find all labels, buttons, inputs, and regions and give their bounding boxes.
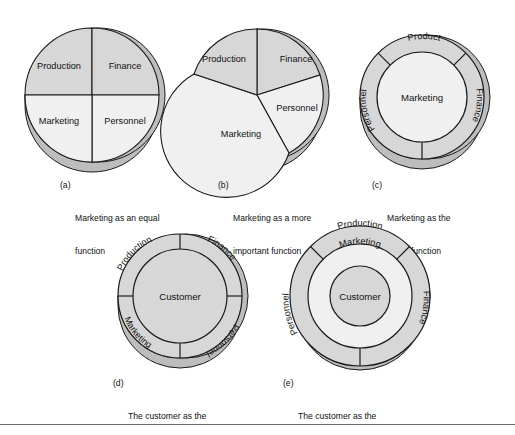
ring-center-label-d: Customer [159,291,201,302]
panel-d: Production Finance Personnel Marketing C… [100,218,260,376]
pie-label-marketing-a: Marketing [39,116,79,126]
pie-label-production-a: Production [37,61,81,71]
pie-label-marketing-b: Marketing [221,129,261,139]
pie-label-finance-a: Finance [109,61,142,71]
pie-slice-marketing-a [25,95,92,162]
pie-label-personnel-a: Personnel [104,116,145,126]
caption-e: (e) The customer as the controlling func… [283,378,443,435]
panel-b: Finance Personnel Marketing Production [186,14,336,174]
panel-a: Production Finance Personnel Marketing [18,14,168,174]
caption-d-label: (d) [113,378,124,389]
panel-e: Production Personnel Finance Marketing C… [268,214,444,384]
panel-c: Product Finance Personnel Marketing [344,14,504,174]
panel-b-pie-chart: Finance Personnel Marketing Production [186,14,336,174]
ring-center-label-c: Marketing [401,92,443,103]
pie-slice-personnel-a [92,95,159,162]
caption-e-line-1: The customer as the [298,411,443,422]
caption-c-label: (c) [372,180,382,191]
pie-label-production-b: Production [202,54,246,64]
panel-c-ring-chart: Product Finance Personnel Marketing [344,14,504,174]
caption-e-label: (e) [283,378,294,389]
ring-center-label-e: Customer [339,291,381,302]
panel-e-ring-chart: Production Personnel Finance Marketing C… [268,214,444,384]
caption-d-line-1: The customer as the [128,411,253,422]
caption-d: (d) The customer as the controlling func… [113,378,253,435]
figure-marketing-concept-diagrams: Production Finance Personnel Marketing (… [0,0,515,435]
panel-a-pie-chart: Production Finance Personnel Marketing [18,14,168,174]
caption-a-label: (a) [60,180,71,191]
pie-label-personnel-b: Personnel [276,103,317,113]
panel-d-ring-chart: Production Finance Personnel Marketing C… [100,218,260,376]
bottom-rule [0,424,515,425]
pie-label-finance-b: Finance [280,54,313,64]
caption-b-label: (b) [218,180,229,191]
